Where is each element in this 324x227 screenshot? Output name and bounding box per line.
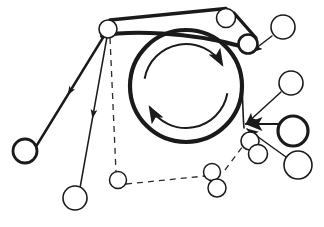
dashed-vertical-left bbox=[110, 38, 116, 172]
dashed-path-group bbox=[110, 38, 243, 184]
dashed-cluster-link bbox=[225, 146, 243, 170]
pulley-bottom-left bbox=[110, 172, 127, 189]
roller-upper-right bbox=[271, 15, 295, 39]
upper-rotation-arrow bbox=[145, 44, 223, 79]
belt-pulley-schematic bbox=[0, 0, 324, 227]
roller-lower-right bbox=[284, 151, 312, 179]
pulley-top-left bbox=[99, 20, 117, 38]
pulley-top-right-lower bbox=[239, 35, 258, 54]
pulley-top-right-upper bbox=[217, 9, 236, 28]
roller-bottom-left bbox=[63, 186, 87, 210]
leader-to-mid-right-roller bbox=[246, 92, 281, 124]
diagram-canvas bbox=[0, 0, 324, 227]
lower-rotation-arrow bbox=[150, 93, 228, 128]
dashed-bottom-span bbox=[126, 176, 205, 184]
belt-top-span bbox=[110, 9, 226, 21]
main-drum bbox=[130, 30, 242, 142]
belt-group bbox=[102, 9, 256, 129]
drum-group bbox=[130, 30, 242, 142]
roller-far-left bbox=[13, 139, 37, 163]
pulley-bottom-mid-b bbox=[208, 179, 226, 197]
pulley-cluster-b bbox=[249, 145, 268, 164]
pulley-bottom-mid-a bbox=[204, 164, 221, 181]
roller-right-thick bbox=[278, 116, 308, 146]
roller-mid-right bbox=[279, 71, 303, 95]
leader-line-group bbox=[37, 36, 286, 188]
